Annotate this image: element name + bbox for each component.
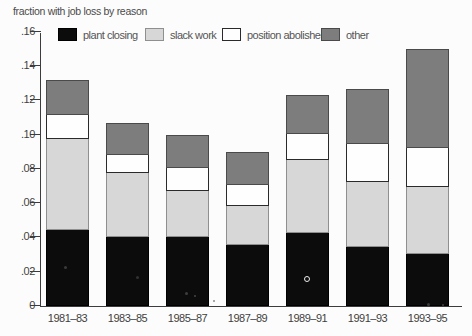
segment-position-abolished	[226, 184, 269, 206]
speckle	[427, 303, 430, 306]
bar-1983-85	[106, 123, 149, 306]
segment-position-abolished	[286, 133, 329, 160]
x-axis-label: 1985–87	[168, 312, 207, 324]
segment-plant-closing	[406, 253, 449, 306]
stacked-bar-chart-figure: fraction with job loss by reason plant c…	[0, 0, 472, 336]
x-axis-label: 1989–91	[288, 312, 327, 324]
speckle	[185, 292, 188, 295]
y-axis-tick-label: .08	[1, 163, 35, 174]
bar-1981-83	[46, 80, 89, 306]
speckle	[64, 266, 67, 269]
segment-other	[166, 135, 209, 168]
segment-other	[226, 152, 269, 185]
segment-position-abolished	[46, 114, 89, 139]
segment-slack-work	[286, 159, 329, 233]
y-axis-tick-label: 0	[1, 300, 35, 311]
segment-slack-work	[346, 181, 389, 247]
x-axis-label: 1991–93	[348, 312, 387, 324]
segment-plant-closing	[226, 244, 269, 306]
speckle	[442, 304, 444, 306]
y-axis-tick-label: .02	[1, 266, 35, 277]
segment-plant-closing	[286, 232, 329, 306]
segment-plant-closing	[166, 236, 209, 306]
x-axis-label: 1993–95	[408, 312, 447, 324]
segment-slack-work	[106, 172, 149, 237]
segment-other	[286, 95, 329, 134]
bar-1987-89	[226, 152, 269, 306]
x-axis-label: 1981–83	[48, 312, 87, 324]
y-axis-tick-label: .06	[1, 197, 35, 208]
y-axis-tick-label: .12	[1, 94, 35, 105]
y-axis-tick-label: .10	[1, 129, 35, 140]
segment-slack-work	[46, 138, 89, 230]
y-axis-tick-label: .04	[1, 231, 35, 242]
segment-other	[106, 123, 149, 155]
segment-position-abolished	[406, 147, 449, 187]
speckle	[213, 300, 215, 302]
bar-1993-95	[406, 49, 449, 306]
segment-other	[46, 80, 89, 115]
segment-other	[406, 49, 449, 148]
segment-position-abolished	[166, 167, 209, 191]
segment-slack-work	[226, 205, 269, 245]
speckle	[194, 295, 196, 297]
segment-slack-work	[406, 186, 449, 254]
segment-position-abolished	[346, 143, 389, 182]
segment-other	[346, 89, 389, 144]
segment-plant-closing	[346, 246, 389, 306]
speckle	[136, 276, 139, 279]
segment-slack-work	[166, 190, 209, 237]
speckle	[304, 276, 310, 282]
bar-1989-91	[286, 95, 329, 306]
chart-title: fraction with job loss by reason	[13, 5, 147, 17]
bar-1985-87	[166, 135, 209, 306]
bar-1991-93	[346, 89, 389, 306]
y-axis-tick-label: .14	[1, 60, 35, 71]
x-axis-label: 1987–89	[228, 312, 267, 324]
segment-position-abolished	[106, 154, 149, 173]
y-axis-tick-label: .16	[1, 26, 35, 37]
x-axis-label: 1983–85	[108, 312, 147, 324]
plot-area: .16.14.12.10.08.06.04.0201981–831983–851…	[40, 33, 462, 307]
segment-plant-closing	[106, 236, 149, 306]
segment-plant-closing	[46, 229, 89, 306]
